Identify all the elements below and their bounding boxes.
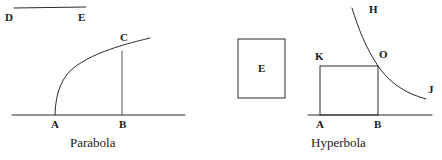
label-d: D [5,12,13,23]
hyperbola-rectangle-akob [320,66,378,115]
caption-parabola: Parabola [70,136,115,149]
figure-drawing-canvas [0,0,442,160]
label-b-hyperbola: B [374,119,381,130]
parabola-curve [55,38,150,115]
caption-hyperbola: Hyperbola [311,136,366,149]
label-c-parabola: C [120,32,128,43]
label-h-hyperbola: H [369,4,378,15]
label-o-hyperbola: O [379,49,388,60]
hyperbola-curve [352,8,426,99]
segment-de-line [14,7,86,8]
label-b-parabola: B [119,119,126,130]
geometry-figure-panel: D E A B C Parabola E H J K O A B Hyperbo… [0,0,442,160]
label-k-hyperbola: K [315,51,324,62]
label-e-square: E [258,63,265,74]
label-a-parabola: A [51,119,59,130]
label-a-hyperbola: A [316,119,324,130]
label-e-segment: E [78,12,85,23]
label-j-hyperbola: J [428,84,434,95]
